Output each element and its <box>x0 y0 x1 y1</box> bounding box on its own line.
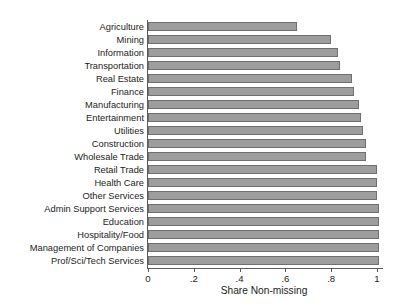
bar <box>148 113 361 122</box>
category-label: Education <box>0 217 144 227</box>
bar <box>148 126 363 135</box>
x-tick-label: .8 <box>327 273 335 284</box>
category-label: Retail Trade <box>0 165 144 175</box>
bar <box>148 191 377 200</box>
category-label: Agriculture <box>0 22 144 32</box>
bar-row <box>148 86 380 99</box>
x-tick-mark <box>377 268 378 272</box>
category-label: Management of Companies <box>0 243 144 253</box>
bar <box>148 74 352 83</box>
bar-row <box>148 112 380 125</box>
bar-row <box>148 190 380 203</box>
category-label: Transportation <box>0 61 144 71</box>
bar <box>148 178 377 187</box>
bar <box>148 139 366 148</box>
x-tick-mark <box>240 268 241 272</box>
x-tick-label: 0 <box>145 273 150 284</box>
x-tick-label: .4 <box>236 273 244 284</box>
bar-row <box>148 99 380 112</box>
bar <box>148 204 379 213</box>
category-label: Health Care <box>0 178 144 188</box>
bar <box>148 256 379 265</box>
bar-row <box>148 203 380 216</box>
bar <box>148 100 359 109</box>
bar-row <box>148 138 380 151</box>
bar <box>148 217 379 226</box>
bar-row <box>148 47 380 60</box>
bar <box>148 35 331 44</box>
x-tick-mark <box>194 268 195 272</box>
category-label: Manufacturing <box>0 100 144 110</box>
bar-row <box>148 60 380 73</box>
x-tick-mark <box>148 268 149 272</box>
category-label: Entertainment <box>0 113 144 123</box>
bar <box>148 61 340 70</box>
bar-row <box>148 242 380 255</box>
x-tick-label: .2 <box>190 273 198 284</box>
bar-row <box>148 125 380 138</box>
bar <box>148 22 297 31</box>
bar <box>148 243 379 252</box>
category-label: Other Services <box>0 191 144 201</box>
bar-row <box>148 73 380 86</box>
bar-row <box>148 255 380 268</box>
plot-area <box>148 21 380 268</box>
bar <box>148 48 338 57</box>
category-label: Utilities <box>0 126 144 136</box>
x-axis-title: Share Non-missing <box>148 285 380 297</box>
category-label: Prof/Sci/Tech Services <box>0 256 144 266</box>
category-label: Admin Support Services <box>0 204 144 214</box>
x-tick-mark <box>331 268 332 272</box>
x-tick-label: .6 <box>281 273 289 284</box>
bar <box>148 230 379 239</box>
bar-row <box>148 21 380 34</box>
category-label: Information <box>0 48 144 58</box>
bar <box>148 152 366 161</box>
category-label: Real Estate <box>0 74 144 84</box>
bar <box>148 165 377 174</box>
category-label: Construction <box>0 139 144 149</box>
bar-row <box>148 177 380 190</box>
category-label: Wholesale Trade <box>0 152 144 162</box>
category-axis-labels: AgricultureMiningInformationTransportati… <box>0 21 144 268</box>
bar <box>148 87 354 96</box>
bar-chart: AgricultureMiningInformationTransportati… <box>0 0 414 307</box>
bar-row <box>148 229 380 242</box>
x-tick-mark <box>285 268 286 272</box>
category-label: Hospitality/Food <box>0 230 144 240</box>
bar-row <box>148 216 380 229</box>
bar-row <box>148 151 380 164</box>
bar-row <box>148 164 380 177</box>
category-label: Mining <box>0 35 144 45</box>
x-tick-label: 1 <box>374 273 379 284</box>
category-label: Finance <box>0 87 144 97</box>
bar-row <box>148 34 380 47</box>
